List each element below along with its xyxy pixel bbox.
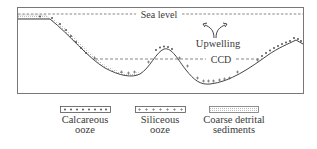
- upwelling-arrows-icon: [203, 23, 227, 38]
- legend-coarse-detrital: Coarse detrital sediments: [194, 115, 274, 135]
- sea-level-label: Sea level: [141, 9, 178, 20]
- legend-swatch-calcareous: [61, 107, 111, 113]
- legend-calcareous: Calcareous ooze: [50, 115, 120, 135]
- legend-siliceous: Siliceous ooze: [125, 115, 195, 135]
- upwelling-label: Upwelling: [196, 38, 241, 49]
- siliceous-ooze-markers: [93, 57, 259, 83]
- legend-swatch-siliceous: [136, 107, 186, 113]
- seafloor-profile: [18, 19, 303, 84]
- legend-siliceous-line2: ooze: [125, 125, 195, 135]
- legend-coarse-line2: sediments: [194, 125, 274, 135]
- legend-swatch-coarse-detrital: [210, 107, 259, 113]
- coarse-detrital-slope: [50, 19, 140, 76]
- legend-calcareous-line2: ooze: [50, 125, 120, 135]
- diagram-frame: [18, 8, 304, 94]
- ccd-label: CCD: [211, 54, 232, 65]
- coarse-detrital-deposit: [18, 15, 50, 19]
